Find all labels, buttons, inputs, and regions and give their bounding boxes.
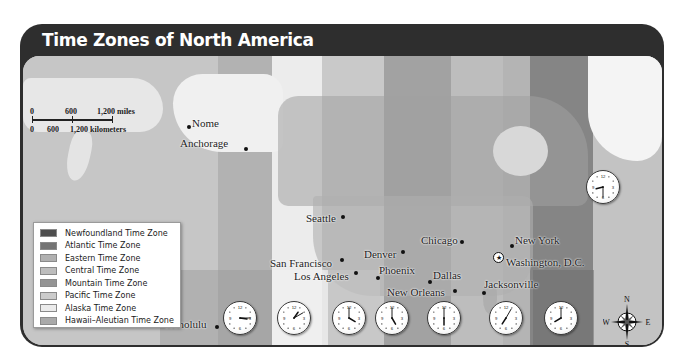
- scale-km-1200: 1,200 kilometers: [70, 125, 126, 134]
- legend-label: Newfoundland Time Zone: [65, 229, 168, 238]
- city-dot-san-francisco: [340, 258, 344, 262]
- svg-text:9: 9: [229, 316, 232, 321]
- legend-item-atlantic: Atlantic Time Zone: [34, 240, 180, 253]
- city-label-new-orleans[interactable]: New Orleans: [387, 286, 445, 298]
- svg-text:6: 6: [348, 326, 351, 331]
- scale-miles-1200: 1,200 miles: [97, 107, 135, 116]
- compass-n: N: [624, 295, 630, 304]
- city-dot-honolulu: [215, 325, 219, 329]
- legend-swatch: [40, 229, 57, 237]
- legend-item-newfoundland: Newfoundland Time Zone: [34, 227, 180, 240]
- clock-face-icon: 12369: [490, 302, 522, 334]
- city-label-seattle[interactable]: Seattle: [306, 212, 336, 224]
- svg-text:3: 3: [515, 316, 518, 321]
- legend-swatch: [40, 317, 57, 325]
- legend-label: Eastern Time Zone: [65, 254, 140, 263]
- svg-text:12: 12: [504, 305, 509, 310]
- clock-face-icon: 12369: [587, 171, 619, 203]
- city-label-dallas[interactable]: Dallas: [433, 269, 461, 281]
- legend-label: Pacific Time Zone: [65, 291, 135, 300]
- map-title: Time Zones of North America: [42, 30, 314, 50]
- scale-tick: [32, 116, 33, 123]
- legend-swatch: [40, 267, 57, 275]
- legend-item-hawaii-aleutian: Hawaii–Aleutian Time Zone: [34, 315, 180, 328]
- scale-tick: [72, 116, 73, 123]
- scale-bar: 0 600 1,200 miles 0 600 1,200 kilometers: [27, 105, 177, 145]
- city-dot-new-orleans: [453, 289, 457, 293]
- city-label-anchorage[interactable]: Anchorage: [180, 137, 228, 149]
- map-frame: Time Zones of North America 0 600 1,200 …: [20, 24, 664, 347]
- clock-face-icon: 12369: [428, 302, 460, 334]
- capital-star-icon: ★: [493, 252, 504, 263]
- city-dot-phoenix: [376, 276, 380, 280]
- clock-pacific: 12369: [332, 301, 366, 335]
- svg-text:9: 9: [433, 316, 436, 321]
- scale-km-0: 0: [30, 125, 34, 134]
- city-dot-anchorage: [244, 147, 248, 151]
- clock-alaska: 12369: [277, 301, 311, 335]
- legend-item-central: Central Time Zone: [34, 265, 180, 278]
- compass-rose-icon: N S W E: [603, 294, 651, 345]
- legend-swatch: [40, 279, 57, 287]
- legend-label: Mountain Time Zone: [65, 279, 147, 288]
- legend-item-mountain: Mountain Time Zone: [34, 277, 180, 290]
- svg-text:9: 9: [338, 316, 341, 321]
- city-label-phoenix[interactable]: Phoenix: [379, 264, 415, 276]
- svg-text:9: 9: [495, 316, 498, 321]
- scale-miles-600: 600: [65, 107, 77, 116]
- svg-text:12: 12: [292, 305, 297, 310]
- legend-swatch: [40, 304, 57, 312]
- legend-label: Central Time Zone: [65, 266, 139, 275]
- clock-eastern: 12369: [489, 301, 523, 335]
- scale-km-600: 600: [47, 125, 59, 134]
- legend: Newfoundland Time Zone Atlantic Time Zon…: [33, 222, 181, 328]
- svg-text:3: 3: [453, 316, 456, 321]
- clock-hawaii-aleutian: 12369: [223, 301, 257, 335]
- svg-text:9: 9: [592, 185, 595, 190]
- clock-central: 12369: [427, 301, 461, 335]
- legend-label: Hawaii–Aleutian Time Zone: [65, 316, 174, 325]
- legend-item-pacific: Pacific Time Zone: [34, 290, 180, 303]
- map-area: 0 600 1,200 miles 0 600 1,200 kilometers…: [23, 56, 662, 345]
- scale-tick: [112, 116, 113, 123]
- clock-face-icon: 12369: [545, 302, 577, 334]
- compass-s: S: [625, 340, 629, 345]
- city-label-washington-dc[interactable]: Washington, D.C.: [506, 256, 585, 268]
- city-dot-seattle: [341, 215, 345, 219]
- clock-mountain: 12369: [375, 301, 409, 335]
- city-label-los-angeles[interactable]: Los Angeles: [294, 270, 349, 282]
- clock-face-icon: 12369: [333, 302, 365, 334]
- svg-text:6: 6: [293, 326, 296, 331]
- legend-item-alaska: Alaska Time Zone: [34, 302, 180, 315]
- legend-label: Alaska Time Zone: [65, 304, 136, 313]
- svg-text:6: 6: [560, 326, 563, 331]
- city-label-chicago[interactable]: Chicago: [421, 234, 458, 246]
- city-dot-jacksonville: [482, 291, 486, 295]
- svg-text:6: 6: [239, 326, 242, 331]
- clock-face-icon: 12369: [278, 302, 310, 334]
- city-label-san-francisco[interactable]: San Francisco: [270, 257, 332, 269]
- legend-swatch: [40, 242, 57, 250]
- city-label-new-york[interactable]: New York: [515, 234, 560, 246]
- svg-text:3: 3: [358, 316, 361, 321]
- svg-text:6: 6: [391, 326, 394, 331]
- svg-text:12: 12: [238, 305, 243, 310]
- svg-text:3: 3: [249, 316, 252, 321]
- legend-swatch: [40, 254, 57, 262]
- svg-text:3: 3: [570, 316, 573, 321]
- clock-face-icon: 12369: [224, 302, 256, 334]
- city-dot-new-york: [510, 244, 514, 248]
- legend-label: Atlantic Time Zone: [65, 241, 140, 250]
- city-label-denver[interactable]: Denver: [364, 248, 396, 260]
- svg-text:9: 9: [550, 316, 553, 321]
- svg-text:9: 9: [381, 316, 384, 321]
- city-label-jacksonville[interactable]: Jacksonville: [484, 278, 538, 290]
- city-dot-chicago: [460, 240, 464, 244]
- svg-text:6: 6: [443, 326, 446, 331]
- city-label-nome[interactable]: Nome: [192, 117, 219, 129]
- legend-swatch: [40, 292, 57, 300]
- svg-text:12: 12: [601, 174, 606, 179]
- hudson-bay: [493, 126, 548, 176]
- compass-e: E: [646, 318, 651, 327]
- clock-atlantic: 12369: [544, 301, 578, 335]
